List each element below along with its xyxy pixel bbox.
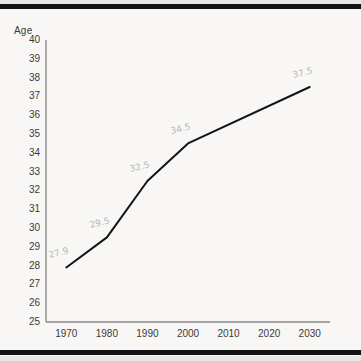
y-tick-37: 37	[14, 90, 40, 101]
line-chart: Age 40393837363534333231302928272625 197…	[0, 9, 361, 350]
y-tick-39: 39	[14, 53, 40, 64]
y-tick-28: 28	[14, 260, 40, 271]
x-tick-1980: 1980	[87, 328, 127, 339]
y-tick-27: 27	[14, 278, 40, 289]
y-tick-31: 31	[14, 203, 40, 214]
scan-bar-bottom	[0, 350, 361, 355]
x-tick-2030: 2030	[290, 328, 330, 339]
y-tick-25: 25	[14, 316, 40, 327]
x-tick-2020: 2020	[249, 328, 289, 339]
y-tick-36: 36	[14, 109, 40, 120]
x-tick-2010: 2010	[209, 328, 249, 339]
scan-edge-bottom	[0, 356, 361, 361]
y-tick-30: 30	[14, 222, 40, 233]
y-tick-32: 32	[14, 184, 40, 195]
y-tick-35: 35	[14, 128, 40, 139]
chart-canvas	[0, 9, 361, 350]
y-tick-34: 34	[14, 147, 40, 158]
data-series-line	[66, 87, 309, 268]
x-tick-2000: 2000	[168, 328, 208, 339]
y-tick-40: 40	[14, 34, 40, 45]
x-tick-1970: 1970	[46, 328, 86, 339]
y-tick-29: 29	[14, 241, 40, 252]
x-tick-1990: 1990	[127, 328, 167, 339]
y-tick-38: 38	[14, 72, 40, 83]
y-tick-33: 33	[14, 166, 40, 177]
y-tick-26: 26	[14, 297, 40, 308]
scanned-chart-page: Age 40393837363534333231302928272625 197…	[0, 0, 361, 361]
